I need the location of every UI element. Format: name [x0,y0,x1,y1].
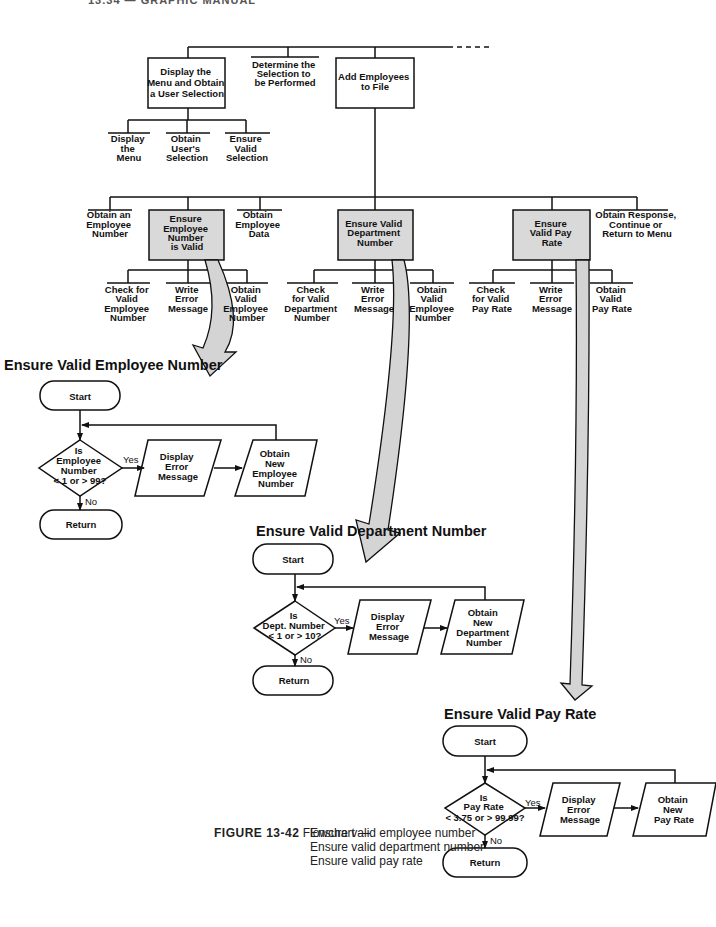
fc3-yes-label: Yes [525,797,541,808]
fc3-no-label: No [490,835,502,846]
fc2-start: Start [282,554,304,565]
node-obtain-valid-pay-rate: Obtain Valid Pay Rate [592,284,632,314]
fc2-yes-label: Yes [334,615,350,626]
node-obtain-valid-employee-number-1: Obtain Valid Employee Number [223,284,271,323]
caption-line-1: Ensure valid employee number [310,826,484,840]
figure-caption: FIGURE 13-42 Flowchart — Ensure valid em… [214,826,370,840]
fc1-return: Return [66,519,97,530]
fc1-decision: Is Employee Number < 1 or > 99? [54,445,107,486]
figure-number: FIGURE 13-42 [214,826,299,840]
node-write-error-message-2: Write Error Message [354,284,394,314]
node-check-valid-employee-number: Check for Valid Employee Number [104,284,152,323]
node-write-error-message-1: Write Error Message [168,284,208,314]
node-ensure-valid-selection: Ensure Valid Selection [226,133,268,163]
node-obtain-response: Obtain Response, Continue or Return to M… [595,209,678,239]
flowchart-title-department-number: Ensure Valid Department Number [256,523,487,539]
flowchart-diagram: Display the Menu and Obtain a User Selec… [0,0,716,927]
fc1-start: Start [69,391,91,402]
node-obtain-employee-number: Obtain an Employee Number [86,209,134,239]
fc1-yes-label: Yes [123,454,139,465]
node-check-valid-department-number: Check for Valid Department Number [284,284,339,323]
fc3-start: Start [474,736,496,747]
caption-line-3: Ensure valid pay rate [310,854,484,868]
node-obtain-users-selection: Obtain User's Selection [166,133,208,163]
node-display-the-menu: Display the Menu [111,133,147,163]
flowchart-title-employee-number: Ensure Valid Employee Number [4,357,223,373]
flowchart-title-pay-rate: Ensure Valid Pay Rate [444,706,596,722]
fc2-return: Return [279,675,310,686]
fc2-decision: Is Dept. Number < 1 or > 10? [263,610,328,641]
node-determine-selection: Determine the Selection to be Performed [252,59,318,88]
node-check-valid-pay-rate: Check for Valid Pay Rate [472,284,512,314]
fc2-no-label: No [300,654,312,665]
node-obtain-employee-data: Obtain Employee Data [235,209,283,239]
node-write-error-message-3: Write Error Message [532,284,572,314]
node-obtain-valid-employee-number-2: Obtain Valid Employee Number [409,284,457,323]
caption-line-2: Ensure valid department number [310,840,484,854]
fc1-no-label: No [85,496,97,507]
